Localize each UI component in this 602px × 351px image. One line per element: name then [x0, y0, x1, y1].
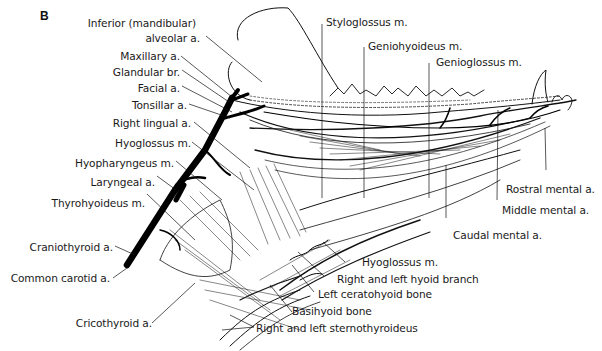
hyoglossus-sheet	[300, 150, 520, 210]
label-glandular-br: Glandular br.	[113, 66, 180, 78]
panel-label: B	[40, 9, 49, 23]
label-styloglossus-m: Styloglossus m.	[326, 16, 408, 28]
teeth	[330, 84, 484, 96]
label-sternothyroideus: Right and left sternothyroideus	[256, 322, 418, 334]
label-rostral-mental-a: Rostral mental a.	[506, 183, 595, 195]
label-basihyoid-bone: Basihyoid bone	[292, 305, 372, 317]
canine-tooth	[532, 70, 548, 104]
label-maxillary-a: Maxillary a.	[120, 50, 180, 62]
label-laryngeal-a: Laryngeal a.	[91, 176, 155, 188]
label-inferior-alveolar-a-line2: alveolar a.	[145, 32, 200, 44]
tonsillar-artery	[205, 150, 230, 175]
label-caudal-mental-a: Caudal mental a.	[453, 229, 542, 241]
label-tonsillar-a: Tonsillar a.	[132, 99, 187, 111]
label-craniothyroid-a: Craniothyroid a.	[30, 241, 113, 253]
mandible-ramus	[237, 8, 338, 88]
thyroid-cartilage	[160, 200, 232, 277]
label-hyoglossus-m-bottom: Hyoglossus m.	[362, 256, 438, 268]
label-facial-a: Facial a.	[138, 82, 180, 94]
label-hyopharyngeus-m: Hyopharyngeus m.	[75, 157, 174, 169]
label-middle-mental-a: Middle mental a.	[502, 204, 589, 216]
mandible-body-upper	[232, 100, 560, 115]
label-geniohyoideus-m: Geniohyoideus m.	[368, 40, 462, 52]
label-genioglossus-m: Genioglossus m.	[436, 56, 522, 68]
label-inferior-alveolar-a-line1: Inferior (mandibular)	[88, 17, 196, 29]
label-right-lingual-a: Right lingual a.	[113, 117, 191, 129]
label-common-carotid-a: Common carotid a.	[11, 272, 110, 284]
label-hyoglossus-m-left: Hyoglossus m.	[115, 137, 191, 149]
lingual-artery	[225, 106, 264, 118]
label-thyrohyoideus-m: Thyrohyoideus m.	[52, 197, 145, 209]
label-left-ceratohyoid-bone: Left ceratohyoid bone	[318, 288, 432, 300]
label-cricothyroid-a: Cricothyroid a.	[76, 317, 152, 329]
styloglossus-muscle	[240, 112, 530, 138]
label-hyoid-branch: Right and left hyoid branch	[337, 273, 479, 285]
